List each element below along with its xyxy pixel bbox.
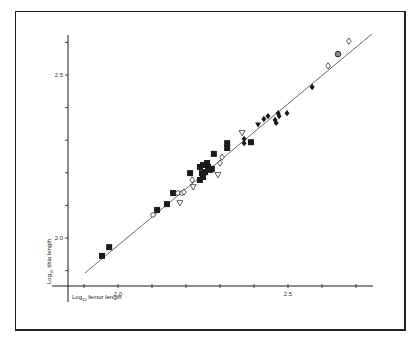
point-square-filled	[207, 167, 213, 173]
x-tick-label: 2.5	[284, 291, 293, 297]
point-square-filled	[224, 145, 230, 151]
point-square-filled	[170, 190, 176, 196]
point-diamond-open	[218, 160, 223, 166]
scatter-plot: 2.02.52.02.5 Log10 femur length Log10 ti…	[0, 0, 416, 345]
point-square-filled	[106, 244, 112, 250]
point-circle-hatched	[335, 51, 341, 57]
point-diamond-filled	[265, 113, 270, 119]
point-square-filled	[248, 139, 254, 145]
y-tick-label: 2.0	[55, 235, 64, 241]
point-square-filled	[154, 207, 160, 213]
point-square-filled	[99, 253, 105, 259]
point-triangle-open	[190, 185, 196, 190]
data-points	[99, 38, 351, 259]
x-axis-label: Log10 femur length	[72, 294, 122, 302]
point-triangle-open	[177, 201, 183, 206]
point-circle-open	[151, 213, 156, 218]
point-square-filled	[211, 151, 217, 157]
point-diamond-filled	[261, 116, 266, 122]
y-axis-label: Log10 tibia length	[46, 239, 54, 284]
point-diamond-open	[326, 63, 331, 69]
regression-line	[85, 34, 372, 273]
y-tick-label: 2.5	[55, 72, 64, 78]
point-square-filled	[187, 170, 193, 176]
point-square-filled	[164, 201, 170, 207]
fit-line	[85, 34, 372, 273]
point-diamond-open	[220, 154, 225, 160]
point-triangle-open	[239, 131, 245, 136]
point-diamond-open	[347, 38, 352, 44]
point-diamond-filled	[284, 110, 289, 116]
point-diamond-filled	[242, 140, 247, 146]
point-triangle-open	[215, 173, 221, 178]
